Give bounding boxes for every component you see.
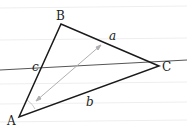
angle-arc-A — [27, 100, 35, 109]
vertex-label-A: A — [6, 114, 16, 128]
vertex-label-B: B — [56, 9, 65, 23]
side-label-a: a — [109, 29, 116, 43]
double-arrow — [36, 45, 101, 101]
side-label-b: b — [86, 95, 94, 109]
transversal-line — [0, 60, 187, 70]
triangle-diagram: B a c C b A — [0, 0, 187, 132]
vertex-label-C: C — [162, 60, 171, 74]
side-label-c: c — [32, 60, 39, 74]
